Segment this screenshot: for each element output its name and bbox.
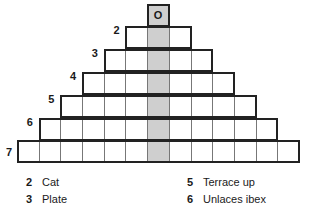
grid-cell[interactable]	[212, 72, 235, 95]
clue-3: 3Plate	[26, 193, 67, 206]
clue-2: 2Cat	[26, 176, 59, 189]
grid-cell[interactable]	[104, 72, 127, 95]
grid-cell[interactable]	[191, 118, 214, 141]
grid-cell[interactable]	[191, 49, 214, 72]
grid-cell[interactable]	[169, 140, 192, 163]
row-number-label: 7	[6, 147, 12, 158]
grid-cell[interactable]	[147, 26, 170, 49]
row-number-label: 5	[48, 94, 54, 105]
grid-cell[interactable]	[147, 49, 170, 72]
grid-cell[interactable]	[82, 140, 105, 163]
grid-cell[interactable]	[147, 95, 170, 118]
grid-cell[interactable]	[212, 118, 235, 141]
clue-6: 6Unlaces ibex	[187, 193, 266, 206]
grid-cell[interactable]	[191, 95, 214, 118]
grid-cell[interactable]	[234, 95, 257, 118]
grid-cell[interactable]	[82, 72, 105, 95]
clue-number: 6	[187, 193, 203, 206]
row-number-label: 4	[70, 71, 76, 82]
clue-text: Plate	[42, 193, 67, 205]
grid-cell[interactable]	[256, 140, 279, 163]
grid-cell[interactable]	[104, 118, 127, 141]
clue-text: Terrace up	[203, 176, 255, 188]
grid-cell[interactable]	[60, 95, 83, 118]
grid-cell[interactable]	[60, 140, 83, 163]
grid-cell[interactable]	[147, 140, 170, 163]
grid-cell[interactable]	[191, 140, 214, 163]
grid-cell[interactable]	[191, 72, 214, 95]
grid-cell[interactable]	[169, 26, 192, 49]
grid-cell[interactable]	[147, 118, 170, 141]
grid-cell[interactable]	[169, 49, 192, 72]
grid-cell[interactable]	[147, 72, 170, 95]
grid-cell[interactable]	[17, 140, 40, 163]
row-number-label: 2	[113, 25, 119, 36]
grid-cell[interactable]	[125, 118, 148, 141]
grid-cell[interactable]	[125, 95, 148, 118]
grid-cell[interactable]	[256, 118, 279, 141]
grid-cell[interactable]	[60, 118, 83, 141]
grid-cell[interactable]	[125, 72, 148, 95]
grid-cell[interactable]	[82, 95, 105, 118]
grid-cell[interactable]	[125, 26, 148, 49]
grid-cell[interactable]	[39, 118, 62, 141]
grid-cell[interactable]	[234, 118, 257, 141]
top-cell-letter: O	[147, 9, 169, 21]
clue-text: Cat	[42, 176, 59, 188]
grid-cell[interactable]	[212, 95, 235, 118]
row-number-label: 3	[92, 48, 98, 59]
grid-cell[interactable]	[125, 140, 148, 163]
grid-cell[interactable]	[104, 95, 127, 118]
clue-text: Unlaces ibex	[203, 193, 266, 205]
clue-5: 5Terrace up	[187, 176, 255, 189]
clue-number: 5	[187, 176, 203, 189]
grid-cell[interactable]	[104, 49, 127, 72]
grid-cell[interactable]	[169, 95, 192, 118]
grid-cell[interactable]	[125, 49, 148, 72]
grid-cell[interactable]	[169, 72, 192, 95]
grid-cell[interactable]	[277, 140, 300, 163]
grid-cell[interactable]	[104, 140, 127, 163]
pyramid-grid: 234567O	[0, 0, 309, 170]
grid-cell[interactable]	[39, 140, 62, 163]
grid-cell[interactable]	[169, 118, 192, 141]
grid-cell[interactable]	[82, 118, 105, 141]
clue-number: 3	[26, 193, 42, 206]
row-number-label: 6	[27, 117, 33, 128]
grid-cell[interactable]	[212, 140, 235, 163]
grid-cell[interactable]	[234, 140, 257, 163]
clue-number: 2	[26, 176, 42, 189]
